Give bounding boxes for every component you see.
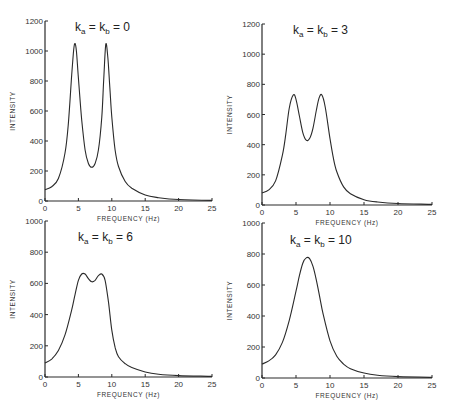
x-axis-label: FREQUENCY (Hz) xyxy=(315,219,378,227)
x-axis-label: FREQUENCY (Hz) xyxy=(97,391,160,399)
x-tick-label: 5 xyxy=(76,204,81,213)
panel-title: ka = kb = 6 xyxy=(78,230,133,246)
x-tick-label: 15 xyxy=(141,204,150,213)
spectrum-curve xyxy=(45,273,212,376)
panel-title: ka = kb = 10 xyxy=(290,233,352,249)
figure-four-panel-spectra: 0200400600800100012000510152025FREQUENCY… xyxy=(0,0,453,410)
x-tick-label: 5 xyxy=(294,208,299,217)
y-axis-label: INTENSITY xyxy=(9,91,16,130)
x-axis-label: FREQUENCY (Hz) xyxy=(97,215,160,223)
x-tick-label: 20 xyxy=(394,208,403,217)
x-tick-label: 25 xyxy=(428,208,437,217)
panel-title: ka = kb = 0 xyxy=(75,20,130,36)
y-tick-label: 1200 xyxy=(25,17,43,26)
x-tick-label: 5 xyxy=(294,381,299,390)
x-tick-label: 20 xyxy=(174,380,183,389)
panel-3: 020040060080010000510152025FREQUENCY (Hz… xyxy=(9,217,217,399)
panel-4: 020040060080010000510152025FREQUENCY (Hz… xyxy=(226,219,437,400)
y-tick-label: 200 xyxy=(30,167,44,176)
x-tick-label: 0 xyxy=(260,208,265,217)
x-axis-label: FREQUENCY (Hz) xyxy=(315,392,378,400)
y-tick-label: 800 xyxy=(247,250,261,259)
y-tick-label: 1000 xyxy=(242,50,260,59)
y-axis-label: INTENSITY xyxy=(226,95,233,134)
spectrum-curve xyxy=(262,94,432,204)
y-tick-label: 400 xyxy=(30,311,44,320)
x-tick-label: 20 xyxy=(394,381,403,390)
y-tick-label: 800 xyxy=(30,248,44,257)
y-tick-label: 400 xyxy=(247,141,261,150)
y-tick-label: 1000 xyxy=(25,217,43,226)
x-tick-label: 20 xyxy=(174,204,183,213)
y-tick-label: 800 xyxy=(30,77,44,86)
spectrum-curve xyxy=(45,43,212,200)
x-tick-label: 0 xyxy=(43,380,48,389)
y-tick-label: 600 xyxy=(247,281,261,290)
x-tick-label: 10 xyxy=(107,204,116,213)
panel-title: ka = kb = 3 xyxy=(293,23,348,39)
y-tick-label: 600 xyxy=(30,279,44,288)
x-tick-label: 0 xyxy=(260,381,265,390)
y-axis-label: INTENSITY xyxy=(226,281,233,320)
y-tick-label: 1200 xyxy=(242,20,260,29)
y-axis-label: INTENSITY xyxy=(9,279,16,318)
y-tick-label: 1000 xyxy=(25,47,43,56)
x-tick-label: 10 xyxy=(326,381,335,390)
y-tick-label: 200 xyxy=(30,342,44,351)
y-tick-label: 1000 xyxy=(242,219,260,228)
panel-2: 0200400600800100012000510152025FREQUENCY… xyxy=(226,20,437,227)
y-tick-label: 200 xyxy=(247,343,261,352)
panel-1: 0200400600800100012000510152025FREQUENCY… xyxy=(9,17,217,223)
x-tick-label: 15 xyxy=(360,208,369,217)
x-tick-label: 5 xyxy=(76,380,81,389)
x-tick-label: 25 xyxy=(208,380,217,389)
x-tick-label: 15 xyxy=(141,380,150,389)
x-tick-label: 15 xyxy=(360,381,369,390)
y-tick-label: 800 xyxy=(247,80,261,89)
x-tick-label: 10 xyxy=(326,208,335,217)
y-tick-label: 600 xyxy=(247,111,261,120)
y-tick-label: 400 xyxy=(30,137,44,146)
x-tick-label: 25 xyxy=(428,381,437,390)
x-tick-label: 0 xyxy=(43,204,48,213)
x-tick-label: 25 xyxy=(208,204,217,213)
y-tick-label: 400 xyxy=(247,312,261,321)
y-tick-label: 600 xyxy=(30,107,44,116)
x-tick-label: 10 xyxy=(107,380,116,389)
y-tick-label: 200 xyxy=(247,171,261,180)
spectrum-curve xyxy=(262,257,432,377)
